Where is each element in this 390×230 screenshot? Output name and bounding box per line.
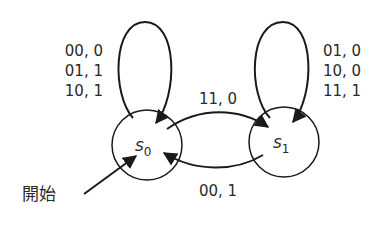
self-loop-s1: 01, 0 10, 0 11, 1	[255, 22, 361, 122]
transition-s0-to-s1-label: 11, 0	[199, 90, 237, 108]
state-s1-subscript: 1	[282, 142, 290, 156]
self-loop-s0-label-2: 01, 1	[65, 62, 103, 80]
self-loop-s0-label-3: 10, 1	[65, 82, 103, 100]
self-loop-s1-label-2: 10, 0	[323, 62, 361, 80]
state-s1-name: s	[273, 132, 282, 152]
self-loop-s0: 00, 0 01, 1 10, 1	[65, 22, 172, 123]
self-loop-s1-label-3: 11, 1	[323, 82, 361, 100]
transition-s0-to-s1: 11, 0	[167, 90, 268, 129]
self-loop-s1-label-1: 01, 0	[323, 42, 361, 60]
state-s0-subscript: 0	[144, 145, 152, 159]
state-diagram: s0 s1 00, 0 01, 1 10, 1 01, 0 10, 0 11, …	[0, 0, 390, 230]
svg-text:s0: s0	[135, 135, 152, 159]
start-label: 開始	[22, 184, 56, 204]
transition-s1-to-s0-label: 00, 1	[199, 182, 237, 200]
arrow-s1-to-s0-icon	[164, 153, 263, 168]
state-s0-name: s	[135, 135, 144, 155]
start-indicator: 開始	[22, 156, 136, 204]
self-loop-s0-arrow-icon	[118, 22, 171, 123]
self-loop-s0-label-1: 00, 0	[65, 42, 103, 60]
state-s0: s0	[112, 110, 182, 180]
svg-text:s1: s1	[273, 132, 290, 156]
transition-s1-to-s0: 00, 1	[164, 153, 263, 200]
state-s1: s1	[249, 107, 319, 177]
